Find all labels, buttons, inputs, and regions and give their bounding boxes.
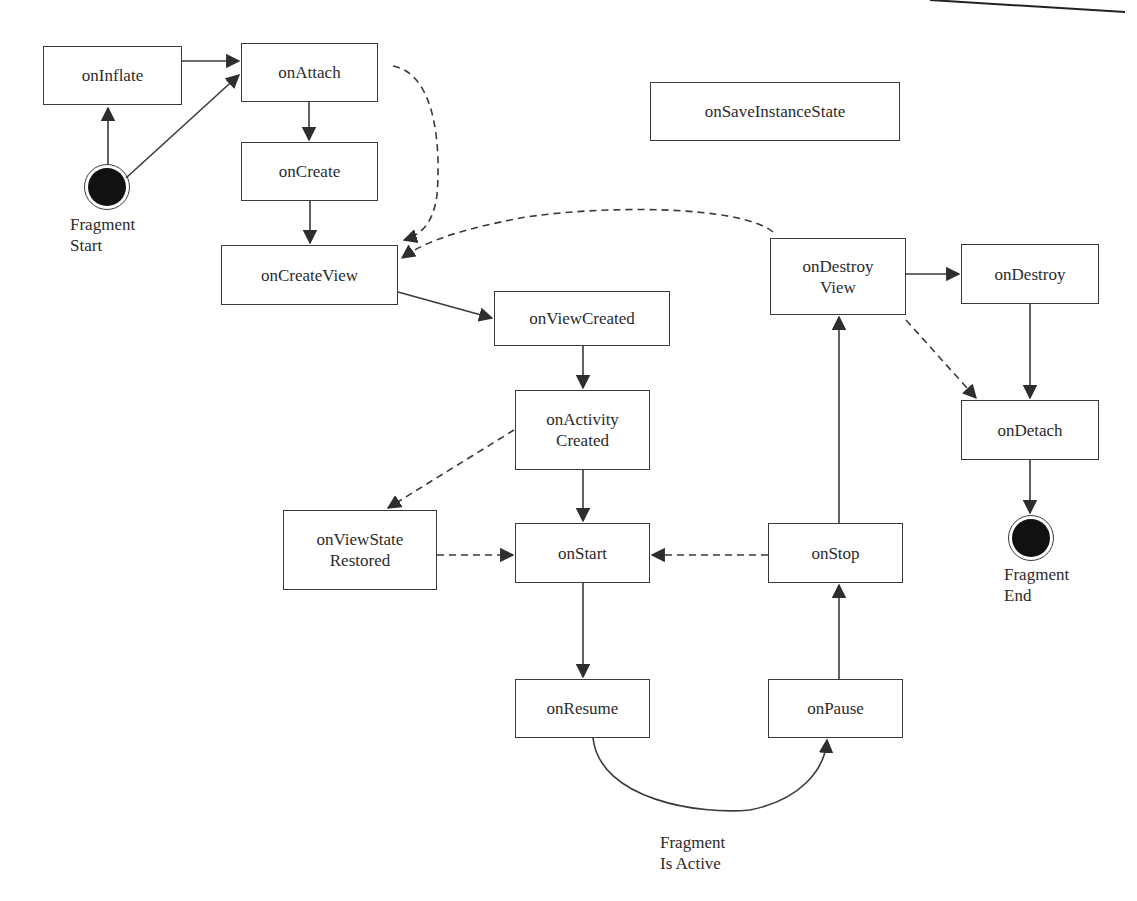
node-label: onDetach [997, 420, 1062, 441]
node-label: onDestroy [995, 264, 1066, 285]
node-label: onResume [547, 698, 619, 719]
node-ondestroy[interactable]: onDestroy [961, 244, 1099, 304]
start-node-icon [84, 164, 130, 210]
edge-onattach-oncreateview-dashed [393, 66, 438, 240]
node-onviewcreated[interactable]: onViewCreated [494, 291, 670, 346]
node-onattach[interactable]: onAttach [241, 43, 378, 102]
node-label: onStart [558, 543, 607, 564]
node-onstop[interactable]: onStop [768, 523, 903, 583]
node-label: onStop [811, 543, 859, 564]
node-onviewstaterestored[interactable]: onViewState Restored [283, 510, 437, 590]
node-onstart[interactable]: onStart [515, 523, 650, 583]
node-label: onSaveInstanceState [705, 101, 846, 122]
node-oninflate[interactable]: onInflate [43, 46, 182, 105]
node-label-line2: Restored [330, 550, 390, 571]
edge-onresume-onpause [593, 738, 827, 811]
start-dot [88, 168, 126, 206]
node-label-line1: onViewState [317, 529, 404, 550]
end-dot [1012, 519, 1050, 557]
node-label: onCreate [279, 161, 340, 182]
end-label: Fragment End [1004, 564, 1069, 606]
node-ondestroyview[interactable]: onDestroy View [770, 238, 906, 315]
edge-ondestroyview-oncreateview-dashed [402, 210, 773, 258]
node-onsaveinstancestate[interactable]: onSaveInstanceState [650, 82, 900, 141]
node-onpause[interactable]: onPause [768, 679, 903, 738]
edge-ondestroyview-ondetach-dashed [906, 320, 976, 398]
node-label: onViewCreated [529, 308, 635, 329]
node-oncreate[interactable]: onCreate [241, 142, 378, 201]
node-onactivitycreated[interactable]: onActivity Created [515, 390, 650, 470]
node-label-line2: View [820, 277, 856, 298]
node-onresume[interactable]: onResume [515, 679, 650, 738]
node-label-line1: onDestroy [803, 256, 874, 277]
node-label: onAttach [278, 62, 340, 83]
fragment-is-active-label: Fragment Is Active [660, 832, 725, 874]
node-label: onInflate [82, 65, 143, 86]
end-node-icon [1008, 515, 1054, 561]
node-oncreateview[interactable]: onCreateView [221, 245, 398, 305]
node-label: onPause [807, 698, 864, 719]
edge-oncreateview-onviewcreated [398, 292, 492, 318]
start-label: Fragment Start [70, 214, 135, 256]
node-label-line2: Created [556, 430, 609, 451]
node-label: onCreateView [261, 265, 358, 286]
node-label-line1: onActivity [546, 409, 619, 430]
edge-onactivitycreated-onviewstaterestored-dashed [388, 430, 514, 508]
node-ondetach[interactable]: onDetach [961, 400, 1099, 460]
